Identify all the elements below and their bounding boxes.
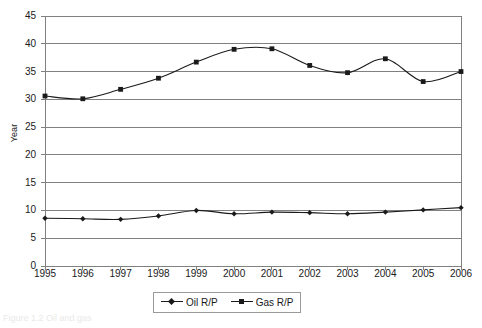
series-oil xyxy=(42,205,463,222)
chart-container: Year 454035302520151050 1995199619971998… xyxy=(0,0,482,328)
caption-remnant: Figure 1.2 Oil and gas xyxy=(3,313,92,323)
legend-label-oil: Oil R/P xyxy=(186,297,218,308)
axis-tick-marks xyxy=(41,16,461,270)
axis-frame xyxy=(45,16,461,266)
legend-label-gas: Gas R/P xyxy=(256,297,294,308)
square-marker-icon xyxy=(231,297,253,307)
chart-legend: Oil R/P Gas R/P xyxy=(153,292,301,313)
data-series-layer xyxy=(42,46,463,222)
plot-area xyxy=(0,0,482,328)
gridlines xyxy=(45,16,461,266)
legend-item-oil: Oil R/P xyxy=(161,297,218,308)
series-gas xyxy=(43,46,464,101)
diamond-marker-icon xyxy=(161,297,183,307)
legend-item-gas: Gas R/P xyxy=(231,297,294,308)
